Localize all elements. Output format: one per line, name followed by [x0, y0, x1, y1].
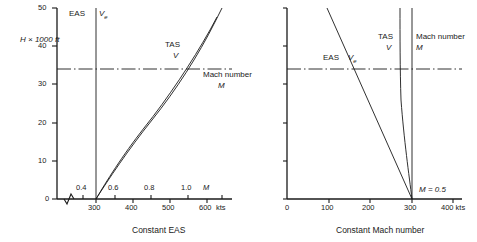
left-tas-label: TAS [165, 41, 180, 49]
right-x-tick-100: 100 [321, 204, 334, 212]
right-curve-eas [327, 8, 412, 199]
right-mach-symbol: M [416, 44, 423, 52]
left-x-tick-400: 400 [125, 204, 138, 212]
right-ve-subscript: e [353, 58, 356, 64]
left-x-tick-600: 600 [199, 204, 212, 212]
right-tas-symbol: V [386, 44, 391, 52]
left-x-tick-300: 300 [88, 204, 101, 212]
right-tas-label: TAS [378, 33, 393, 41]
left-y-tick-30: 30 [38, 80, 46, 88]
left-panel-caption: Constant EAS [132, 226, 185, 235]
left-y-tick-40: 40 [38, 42, 46, 50]
left-tas-symbol: V [173, 52, 178, 60]
left-y-tick-0: 0 [45, 195, 49, 203]
left-mach-axis-symbol: M [203, 184, 209, 192]
right-x-axis-units: 400 kts [441, 204, 465, 212]
right-x-tick-200: 200 [362, 204, 375, 212]
left-curve-tas [96, 8, 222, 199]
left-mach-tick-04: 0.4 [76, 184, 86, 192]
left-y-tick-20: 20 [38, 119, 46, 127]
left-mach-tick-10: 1.0 [181, 184, 191, 192]
left-y-tick-50: 50 [38, 4, 46, 12]
right-x-tick-300: 300 [404, 204, 417, 212]
right-x-tick-0: 0 [285, 204, 289, 212]
figure-airspeed-vs-altitude: H × 1000 ft 50 40 30 20 10 0 300 400 500… [0, 0, 477, 242]
left-eas-label: EAS [69, 10, 85, 18]
left-ve-subscript: e [104, 14, 107, 20]
right-mach-annotation: M = 0.5 [419, 186, 446, 194]
left-mach-tick-06: 0.6 [108, 184, 118, 192]
right-curve-tas [400, 8, 412, 199]
left-y-tick-10: 10 [38, 157, 46, 165]
right-panel-caption: Constant Mach number [336, 226, 424, 235]
left-ve-label: Ve [99, 10, 108, 20]
right-eas-label: EAS [323, 54, 339, 62]
right-ve-label: Ve [348, 54, 357, 64]
left-mach-label: Mach number [203, 71, 252, 79]
left-mach-tick-08: 0.8 [144, 184, 154, 192]
left-mach-symbol: M [218, 82, 225, 90]
right-mach-label: Mach number [416, 33, 465, 41]
left-x-tick-500: 500 [162, 204, 175, 212]
left-x-axis-units: kts [216, 204, 226, 212]
